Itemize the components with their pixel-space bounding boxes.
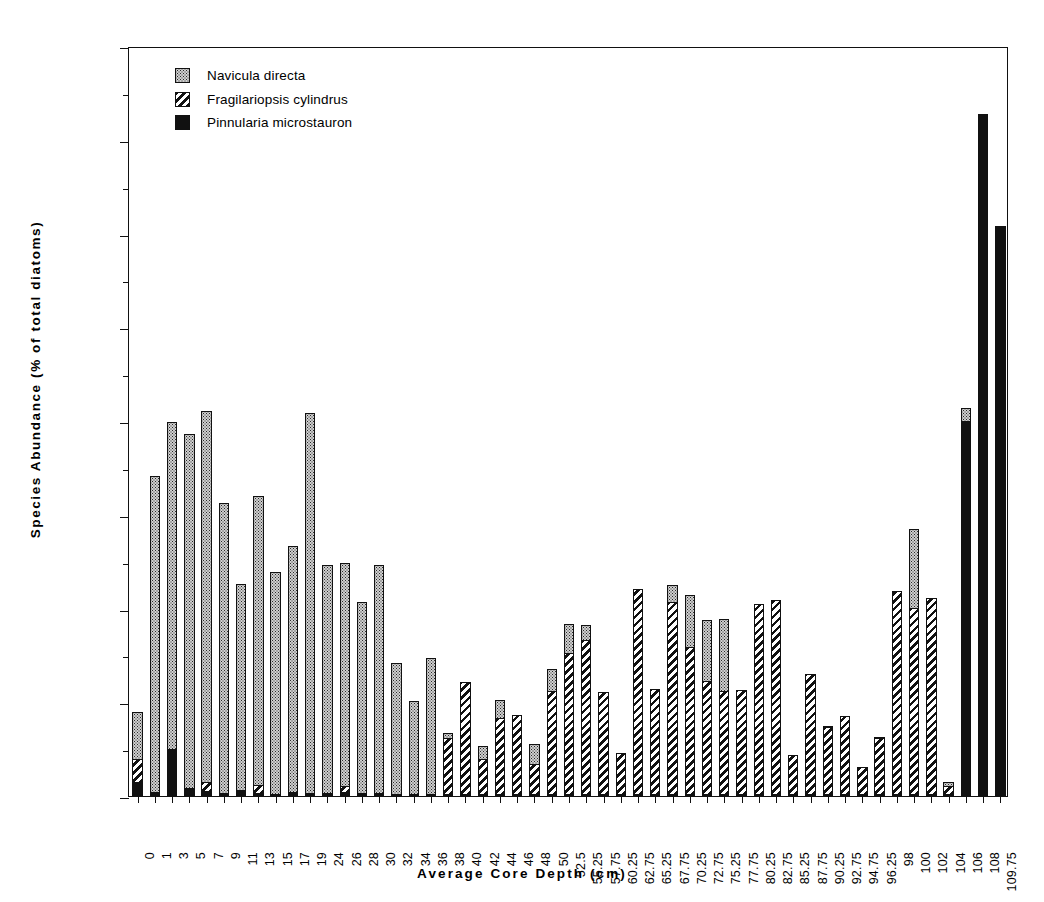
bar-stack[interactable] (529, 744, 539, 796)
x-tick (483, 796, 484, 803)
bar-stack[interactable] (478, 746, 488, 796)
x-tick (949, 796, 950, 803)
bar-stack[interactable] (288, 546, 298, 796)
bar-stack[interactable] (460, 682, 470, 796)
bar-stack[interactable] (805, 674, 815, 796)
bar-stack[interactable] (995, 226, 1005, 796)
bar-segment (961, 421, 971, 796)
bar-stack[interactable] (167, 422, 177, 796)
x-tick (552, 796, 553, 803)
bar-segment (823, 794, 833, 796)
bar-stack[interactable] (926, 598, 936, 796)
bar-segment (633, 589, 643, 795)
bar-stack[interactable] (512, 715, 522, 796)
bar-segment (236, 584, 246, 791)
bar-stack[interactable] (719, 619, 729, 796)
bar-stack[interactable] (184, 434, 194, 796)
bar-segment (150, 476, 160, 794)
bar-segment (443, 794, 453, 796)
bar-stack[interactable] (150, 476, 160, 796)
bar-stack[interactable] (495, 700, 505, 796)
x-tick (638, 796, 639, 803)
bar-segment (909, 529, 919, 609)
bar-stack[interactable] (357, 602, 367, 796)
bar-stack[interactable] (943, 782, 953, 796)
bar-segment (409, 701, 419, 796)
bar-stack[interactable] (547, 669, 557, 796)
bar-stack[interactable] (598, 692, 608, 796)
bar-stack[interactable] (771, 600, 781, 796)
bar-stack[interactable] (978, 114, 988, 797)
bar-stack[interactable] (340, 563, 350, 796)
bar-stack[interactable] (961, 408, 971, 796)
bar-segment (322, 565, 332, 795)
bar-stack[interactable] (840, 716, 850, 797)
bar-stack[interactable] (201, 411, 211, 796)
bar-stack[interactable] (857, 767, 867, 796)
bar-segment (201, 411, 211, 783)
bar-segment (547, 691, 557, 795)
bar-stack[interactable] (374, 565, 384, 796)
bar-stack[interactable] (667, 585, 677, 796)
bar-segment (460, 682, 470, 795)
bar-stack[interactable] (132, 712, 142, 796)
bar-stack[interactable] (736, 690, 746, 796)
bar-stack[interactable] (270, 572, 280, 796)
x-tick (759, 796, 760, 803)
bar-stack[interactable] (253, 496, 263, 796)
legend-item[interactable]: Fragilariopsis cylindrus (175, 92, 352, 107)
bar-stack[interactable] (443, 733, 453, 796)
bar-segment (305, 793, 315, 796)
bar-stack[interactable] (650, 689, 660, 796)
legend-label: Fragilariopsis cylindrus (207, 92, 348, 107)
bar-stack[interactable] (823, 726, 833, 796)
bar-segment (874, 794, 884, 796)
legend-item[interactable]: Navicula directa (175, 68, 352, 83)
bar-segment (788, 794, 798, 796)
bar-stack[interactable] (788, 755, 798, 796)
legend-swatch-icon (175, 115, 190, 130)
bar-stack[interactable] (702, 620, 712, 796)
x-tick-label: 26 (350, 852, 364, 866)
legend-swatch-icon (175, 92, 190, 107)
bar-stack[interactable] (909, 529, 919, 796)
legend-swatch-icon (175, 68, 190, 83)
bar-stack[interactable] (616, 753, 626, 796)
chart-legend: Navicula directaFragilariopsis cylindrus… (175, 68, 352, 139)
bar-segment (598, 794, 608, 796)
legend-item[interactable]: Pinnularia microstauron (175, 115, 352, 130)
bar-stack[interactable] (391, 663, 401, 796)
x-tick (673, 796, 674, 803)
bar-stack[interactable] (236, 584, 246, 796)
bar-stack[interactable] (754, 604, 764, 796)
x-tick-label: 28 (367, 852, 381, 866)
bar-stack[interactable] (633, 589, 643, 796)
x-tick (138, 796, 139, 803)
bar-stack[interactable] (219, 503, 229, 796)
bar-segment (840, 716, 850, 796)
x-tick-label: 46 (522, 852, 536, 866)
legend-label: Pinnularia microstauron (207, 115, 352, 130)
x-tick (793, 796, 794, 803)
y-axis-title: Species Abundance (% of total diatoms) (28, 0, 43, 760)
bar-stack[interactable] (892, 591, 902, 796)
bar-segment (529, 794, 539, 796)
bar-stack[interactable] (305, 413, 315, 796)
bar-segment (685, 647, 695, 795)
bar-stack[interactable] (685, 595, 695, 796)
y-tick-major (120, 423, 129, 424)
bar-stack[interactable] (564, 624, 574, 796)
bar-stack[interactable] (322, 565, 332, 796)
x-tick (155, 796, 156, 803)
x-tick-label: 17 (298, 852, 312, 866)
x-tick-label: 15 (281, 852, 295, 866)
bar-stack[interactable] (874, 737, 884, 796)
bar-stack[interactable] (581, 625, 591, 796)
bar-segment (719, 794, 729, 796)
bar-segment (857, 767, 867, 795)
bar-segment (616, 753, 626, 795)
bar-segment (685, 794, 695, 796)
bar-segment (909, 794, 919, 796)
bar-stack[interactable] (409, 701, 419, 797)
bar-stack[interactable] (426, 658, 436, 796)
